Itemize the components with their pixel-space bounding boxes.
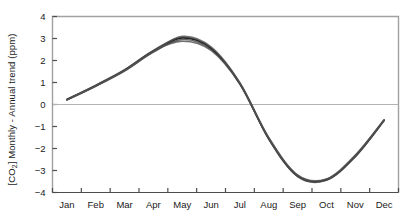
y-tick-label: 0 — [24, 100, 46, 110]
y-tick-label: 2 — [24, 56, 46, 66]
data-series-group — [67, 36, 384, 182]
x-axis-ticks — [53, 188, 399, 193]
y-axis-title: [CO2] Monthly - Annual trend (ppm) — [6, 35, 19, 185]
data-line-ensemble-member-5 — [67, 36, 384, 181]
y-tick-label: 4 — [24, 12, 46, 22]
y-tick-label: 3 — [24, 34, 46, 44]
y-tick-label: 1 — [24, 78, 46, 88]
y-axis-title-subscript: 2 — [11, 164, 18, 168]
y-axis-title-suffix: ] Monthly - Annual trend (ppm) — [6, 34, 17, 165]
data-line-ensemble-member-1 — [67, 38, 384, 182]
data-line-ensemble-member-2 — [67, 37, 384, 181]
y-tick-label: −2 — [24, 144, 46, 154]
plot-area — [0, 0, 409, 220]
y-tick-label: −3 — [24, 166, 46, 176]
chart-figure: [CO2] Monthly - Annual trend (ppm) 43210… — [0, 0, 409, 220]
y-axis-title-prefix: [CO — [6, 168, 17, 185]
x-tick-label: Dec — [367, 200, 401, 210]
y-tick-label: −4 — [24, 188, 46, 198]
y-tick-label: −1 — [24, 122, 46, 132]
